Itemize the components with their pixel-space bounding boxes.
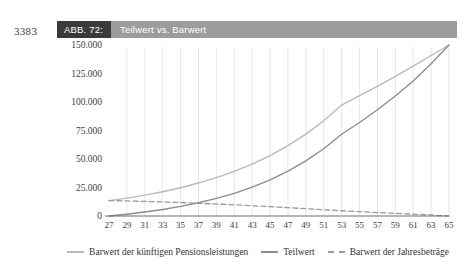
x-axis-tick-label: 33	[158, 220, 168, 230]
figure-title: Teilwert vs. Barwert	[111, 21, 457, 38]
x-axis-tick-label: 43	[248, 220, 258, 230]
figure-page: 3383 ABB. 72: Teilwert vs. Barwert 025.0…	[0, 0, 474, 262]
x-axis-tick-label: 45	[266, 220, 276, 230]
x-axis-tick-label: 37	[194, 220, 204, 230]
legend-label: Teilwert	[283, 247, 315, 257]
x-axis-tick-label: 47	[283, 220, 293, 230]
y-axis-tick-label: 125.000	[71, 69, 102, 79]
x-axis-tick-label: 49	[301, 220, 311, 230]
y-axis-tick-label: 25.000	[76, 183, 102, 193]
legend-label: Barwert der künftigen Pensionsleistungen	[89, 247, 248, 257]
legend-item-barwert-pensionsleistungen: Barwert der künftigen Pensionsleistungen	[67, 247, 248, 257]
series-line	[109, 45, 449, 216]
x-axis-tick-label: 41	[230, 220, 239, 230]
x-axis-tick-label: 53	[337, 220, 347, 230]
legend-swatch-icon	[67, 251, 84, 253]
x-axis-tick-labels: 2729313335373941434547495153555759616365	[105, 220, 455, 230]
figure-caption-bar: ABB. 72: Teilwert vs. Barwert	[57, 21, 457, 38]
y-axis-tick-labels: 025.00050.00075.000100.000125.000150.000	[71, 40, 102, 221]
page-number: 3383	[14, 25, 37, 37]
gridlines	[127, 47, 449, 216]
x-axis-tick-label: 61	[409, 220, 418, 230]
x-axis-tick-label: 35	[176, 220, 186, 230]
legend-swatch-icon	[261, 251, 278, 253]
y-axis-tick-label: 75.000	[76, 126, 102, 136]
y-axis-tick-label: 100.000	[71, 97, 102, 107]
y-axis-tick-label: 0	[97, 211, 102, 221]
x-axis-tick-label: 65	[445, 220, 455, 230]
legend-swatch-icon	[328, 251, 345, 253]
series-line	[109, 45, 449, 201]
line-chart: 025.00050.00075.000100.000125.000150.000…	[57, 40, 457, 240]
x-axis-tick-label: 55	[355, 220, 365, 230]
y-axis-tick-label: 150.000	[71, 40, 102, 50]
chart-area: 025.00050.00075.000100.000125.000150.000…	[57, 40, 457, 240]
x-axis-tick-label: 57	[373, 220, 383, 230]
x-axis-tick-label: 59	[391, 220, 401, 230]
x-axis-tick-label: 27	[105, 220, 115, 230]
y-axis-tick-label: 50.000	[76, 154, 102, 164]
legend-item-barwert-jahresbetraege: Barwert der Jahresbeträge	[328, 247, 449, 257]
legend-label: Barwert der Jahresbeträge	[350, 247, 449, 257]
legend-item-teilwert: Teilwert	[261, 247, 315, 257]
x-axis-tick-label: 51	[319, 220, 328, 230]
chart-legend: Barwert der künftigen Pensionsleistungen…	[52, 244, 464, 260]
x-axis-tick-label: 31	[140, 220, 149, 230]
x-axis-tick-label: 63	[427, 220, 437, 230]
x-axis-tick-label: 29	[122, 220, 132, 230]
series-lines	[109, 45, 449, 216]
figure-number-tag: ABB. 72:	[57, 21, 111, 38]
series-line	[109, 201, 449, 216]
x-axis-tick-label: 39	[212, 220, 222, 230]
